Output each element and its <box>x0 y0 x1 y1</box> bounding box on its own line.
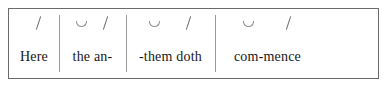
stress-mark-icon <box>99 15 113 31</box>
metrical-foot-1: Here <box>9 9 59 78</box>
stress-mark-icon <box>32 15 46 31</box>
stress-marks-4 <box>215 9 320 37</box>
stress-marks-3 <box>126 9 215 37</box>
foot-syllables-3: -them doth <box>139 49 202 65</box>
foot-syllables-4: com-mence <box>234 49 301 65</box>
breve-mark-icon <box>73 15 87 31</box>
breve-mark-icon <box>240 15 254 31</box>
metrical-feet-row: Here the an- -them doth com-mence <box>9 9 320 78</box>
foot-syllables-2: the an- <box>73 49 113 65</box>
metrical-foot-2: the an- <box>59 9 126 78</box>
stress-marks-1 <box>4 9 64 37</box>
stress-marks-2 <box>59 9 126 37</box>
stress-mark-icon <box>282 15 296 31</box>
scansion-figure: Here the an- -them doth com-mence <box>8 8 379 79</box>
foot-syllables-1: Here <box>20 49 48 65</box>
stress-mark-icon <box>182 15 196 31</box>
metrical-foot-3: -them doth <box>126 9 215 78</box>
metrical-foot-4: com-mence <box>215 9 320 78</box>
breve-mark-icon <box>146 15 160 31</box>
